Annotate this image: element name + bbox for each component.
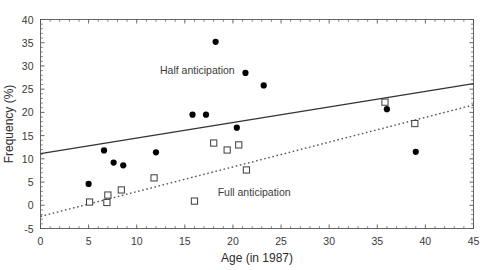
chart-canvas: 051015202530354045-50510152025303540Half… bbox=[0, 0, 485, 270]
x-tick-label-7: 35 bbox=[371, 235, 383, 247]
y-tick-label-4: 15 bbox=[22, 130, 34, 142]
x-axis-title: Age (in 1987) bbox=[221, 251, 293, 265]
data-point bbox=[382, 99, 388, 105]
data-point bbox=[151, 175, 157, 181]
data-point bbox=[105, 192, 111, 198]
x-tick-label-8: 40 bbox=[420, 235, 432, 247]
y-tick-label-9: 40 bbox=[22, 14, 34, 26]
data-point bbox=[203, 112, 209, 118]
series-half-anticipation bbox=[86, 39, 419, 187]
half-anticipation-trend bbox=[41, 84, 474, 154]
data-point bbox=[104, 199, 110, 205]
y-tick-label-7: 30 bbox=[22, 60, 34, 72]
x-tick-label-5: 25 bbox=[275, 235, 287, 247]
series-annotation-1: Full anticipation bbox=[218, 186, 291, 198]
series-annotation-0: Half anticipation bbox=[160, 64, 235, 76]
data-point bbox=[234, 125, 240, 131]
data-point bbox=[86, 181, 92, 187]
x-tick-label-4: 20 bbox=[227, 235, 239, 247]
data-point bbox=[384, 106, 390, 112]
x-tick-label-2: 10 bbox=[131, 235, 143, 247]
data-point bbox=[101, 147, 107, 153]
data-point bbox=[213, 39, 219, 45]
y-axis-title: Frequency (%) bbox=[2, 85, 16, 164]
data-point bbox=[224, 147, 230, 153]
data-point bbox=[189, 112, 195, 118]
x-tick-label-1: 5 bbox=[86, 235, 92, 247]
data-point bbox=[236, 142, 242, 148]
data-point bbox=[261, 82, 267, 88]
data-point bbox=[118, 187, 124, 193]
data-point bbox=[412, 120, 418, 126]
data-point bbox=[211, 140, 217, 146]
y-tick-label-5: 20 bbox=[22, 106, 34, 118]
y-tick-label-0: -5 bbox=[24, 223, 33, 235]
data-point bbox=[242, 70, 248, 76]
y-tick-label-6: 25 bbox=[22, 83, 34, 95]
x-tick-label-0: 0 bbox=[38, 235, 44, 247]
data-point bbox=[413, 149, 419, 155]
x-tick-label-9: 45 bbox=[468, 235, 480, 247]
x-tick-label-3: 15 bbox=[179, 235, 191, 247]
y-tick-label-3: 10 bbox=[22, 153, 34, 165]
data-point bbox=[120, 162, 126, 168]
data-point bbox=[191, 198, 197, 204]
data-point bbox=[243, 167, 249, 173]
y-tick-label-2: 5 bbox=[28, 176, 34, 188]
y-tick-label-8: 35 bbox=[22, 37, 34, 49]
y-tick-label-1: 0 bbox=[28, 199, 34, 211]
scatter-chart: 051015202530354045-50510152025303540Half… bbox=[0, 0, 485, 270]
data-point bbox=[111, 159, 117, 165]
data-point bbox=[153, 149, 159, 155]
data-point bbox=[86, 199, 92, 205]
x-tick-label-6: 30 bbox=[323, 235, 335, 247]
